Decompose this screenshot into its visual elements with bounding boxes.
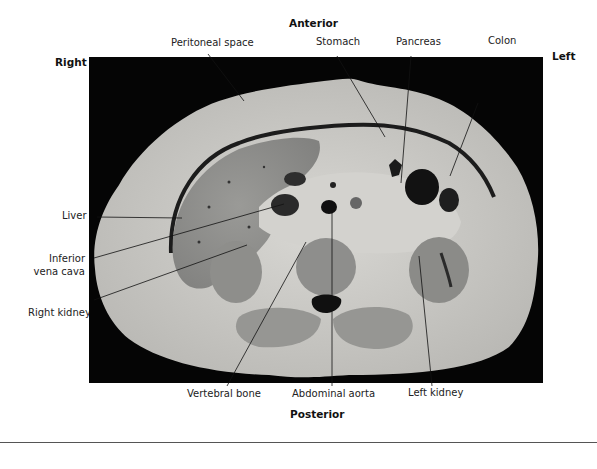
- right-kidney-organ: [210, 241, 262, 303]
- orientation-anterior: Anterior: [289, 17, 338, 29]
- label-left-kidney: Left kidney: [408, 387, 463, 399]
- anatomy-figure: Anterior Right Left Posterior Peritoneal…: [0, 0, 597, 469]
- bottom-divider: [0, 442, 597, 443]
- orientation-left: Left: [552, 50, 575, 62]
- label-right-kidney: Right kidney: [28, 307, 91, 319]
- aorta-vessel: [321, 200, 337, 214]
- label-colon: Colon: [488, 35, 516, 47]
- orientation-posterior: Posterior: [290, 408, 344, 420]
- cross-section-image: [89, 57, 543, 383]
- label-inferior-vena-cava-2: vena cava: [30, 266, 85, 278]
- vertebral-body: [296, 238, 356, 296]
- label-abdominal-aorta: Abdominal aorta: [292, 388, 375, 400]
- label-pancreas: Pancreas: [396, 36, 441, 48]
- label-vertebral-bone: Vertebral bone: [187, 388, 261, 400]
- orientation-right: Right: [55, 56, 87, 68]
- label-liver: Liver: [62, 210, 87, 222]
- left-kidney-organ: [409, 237, 469, 303]
- label-peritoneal-space: Peritoneal space: [171, 37, 254, 49]
- label-stomach: Stomach: [316, 36, 360, 48]
- ivc-vessel: [271, 194, 299, 216]
- label-inferior-vena-cava-1: Inferior: [49, 253, 85, 265]
